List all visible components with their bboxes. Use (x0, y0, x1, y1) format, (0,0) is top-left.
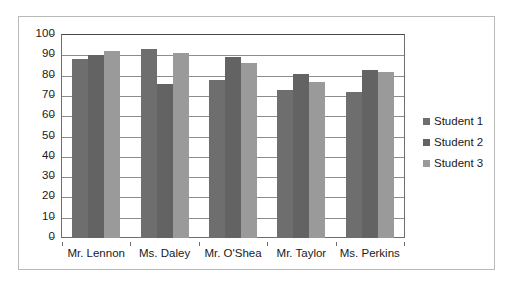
bar-group (267, 35, 335, 238)
bar (293, 74, 309, 238)
bar (88, 55, 104, 238)
bar (209, 80, 225, 238)
bar-group (336, 35, 404, 238)
bar (241, 63, 257, 238)
bar (277, 90, 293, 238)
x-tick-mark (267, 242, 268, 246)
bar-group (199, 35, 267, 238)
legend-swatch-icon (423, 160, 430, 167)
legend-item-2[interactable]: Student 2 (423, 132, 493, 153)
bars-layer (62, 35, 404, 238)
bar (378, 72, 394, 238)
bar (225, 57, 241, 238)
bar-group (62, 35, 130, 238)
bar (362, 70, 378, 238)
legend-item-1[interactable]: Student 1 (423, 111, 493, 132)
y-tick-mark (50, 237, 55, 238)
bar (346, 92, 362, 238)
y-axis: 1009080706050403020100 (19, 34, 55, 238)
y-tick-mark (50, 95, 55, 96)
bar (141, 49, 157, 238)
bar-group (130, 35, 198, 238)
bar (173, 53, 189, 238)
bar (309, 82, 325, 238)
legend-label: Student 1 (434, 116, 483, 128)
x-tick-mark (404, 242, 405, 246)
x-tick-label: Mr. O'Shea (204, 248, 261, 260)
y-tick-mark (50, 196, 55, 197)
y-tick-mark (50, 34, 55, 35)
bar-chart-figure: 1009080706050403020100 Mr. LennonMs. Dal… (18, 16, 495, 270)
x-tick-mark (199, 242, 200, 246)
bar (157, 84, 173, 238)
y-tick-mark (50, 54, 55, 55)
y-tick-mark (50, 176, 55, 177)
x-tick-label: Ms. Daley (139, 248, 190, 260)
legend-swatch-icon (423, 118, 430, 125)
legend-label: Student 2 (434, 137, 483, 149)
y-tick-mark (50, 156, 55, 157)
x-tick-label: Mr. Taylor (277, 248, 327, 260)
x-tick-mark (130, 242, 131, 246)
y-tick-mark (50, 136, 55, 137)
bar (72, 59, 88, 238)
x-tick-mark (336, 242, 337, 246)
x-tick-label: Ms. Perkins (340, 248, 400, 260)
legend-label: Student 3 (434, 158, 483, 170)
bar (104, 51, 120, 238)
chart-legend: Student 1Student 2Student 3 (423, 111, 493, 174)
y-tick-mark (50, 75, 55, 76)
y-tick-mark (50, 115, 55, 116)
x-tick-label: Mr. Lennon (67, 248, 125, 260)
x-axis: Mr. LennonMs. DaleyMr. O'SheaMr. TaylorM… (62, 242, 404, 268)
legend-swatch-icon (423, 139, 430, 146)
legend-item-3[interactable]: Student 3 (423, 153, 493, 174)
x-tick-mark (62, 242, 63, 246)
y-tick-mark (50, 217, 55, 218)
